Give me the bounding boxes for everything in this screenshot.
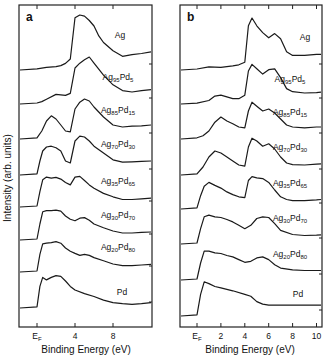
x-tick-label: 2 (219, 331, 224, 341)
spectrum-trace-Ag (181, 18, 321, 70)
spectrum-trace-Ag95Pd5 (181, 64, 321, 104)
panel-b-x-axis-label: Binding Energy (eV) (205, 344, 295, 355)
panel-a-x-ticks: EF48 (32, 5, 152, 342)
trace-label: Ag85Pd15 (101, 105, 136, 116)
panel-b-frame (180, 5, 322, 327)
trace-label: Pd (293, 289, 304, 299)
trace-label: Ag35Pd65 (101, 176, 136, 187)
panel-a-traces (20, 15, 151, 308)
trace-label: Ag30Pd70 (273, 213, 308, 224)
panel-a-trace-labels: AgAg95Pd5Ag85Pd15Ag70Pd30Ag35Pd65Ag30Pd7… (101, 30, 136, 297)
panel-a-letter: a (26, 10, 33, 24)
x-tick-label: 6 (266, 331, 271, 341)
trace-label: Ag95Pd5 (275, 74, 307, 85)
panel-b-letter: b (187, 10, 194, 24)
spectrum-trace-Pd (20, 276, 151, 308)
trace-label: Ag30Pd70 (101, 210, 136, 221)
trace-label: Ag95Pd5 (103, 72, 135, 83)
trace-label: Ag20Pd80 (273, 249, 308, 260)
y-axis-label: Intensity (arb. units) (2, 134, 13, 222)
figure-canvas: Intensity (arb. units) a EF48 AgAg95Pd5A… (0, 0, 329, 359)
trace-label: Ag20Pd80 (101, 242, 136, 253)
x-tick-label: 4 (73, 331, 78, 341)
panel-b-traces (181, 18, 321, 316)
trace-label: Ag70Pd30 (101, 139, 136, 150)
trace-label: Ag70Pd30 (273, 142, 308, 153)
x-tick-label: 4 (242, 331, 247, 341)
x-tick-label: EF (32, 331, 42, 342)
x-tick-label: 10 (312, 331, 322, 341)
x-tick-label: 8 (290, 331, 295, 341)
x-tick-label: 8 (111, 331, 116, 341)
trace-label: Ag85Pd15 (273, 107, 308, 118)
trace-label: Ag (115, 30, 126, 40)
spectrum-trace-Ag70Pd30 (20, 136, 151, 175)
x-tick-label: EF (192, 331, 202, 342)
panel-b-trace-labels: AgAg95Pd5Ag85Pd15Ag70Pd30Ag35Pd65Ag30Pd7… (273, 32, 311, 299)
trace-label: Pd (117, 287, 128, 297)
trace-label: Ag35Pd65 (273, 178, 308, 189)
panel-a: a EF48 AgAg95Pd5Ag85Pd15Ag70Pd30Ag35Pd65… (19, 5, 152, 355)
spectrum-trace-Ag (20, 15, 151, 70)
panel-b: b EF246810 AgAg95Pd5Ag85Pd15Ag70Pd30Ag35… (180, 5, 322, 355)
spectrum-trace-Ag85Pd15 (20, 99, 151, 139)
trace-label: Ag (300, 32, 311, 42)
spectrum-trace-Ag20Pd80 (20, 242, 151, 272)
panel-a-x-axis-label: Binding Energy (eV) (41, 344, 131, 355)
